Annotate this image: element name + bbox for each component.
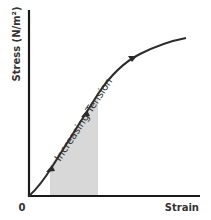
y-axis-label: Stress (N/m²) — [11, 6, 22, 81]
origin-label: 0 — [19, 202, 26, 213]
stress-strain-diagram: Stress (N/m²) Strain 0 Increasing Tensio… — [0, 0, 211, 220]
x-axis-label: Strain — [165, 202, 199, 213]
